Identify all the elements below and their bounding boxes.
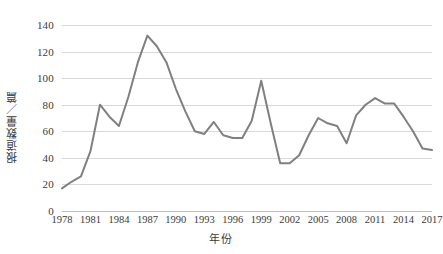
series-line-report-count [62,36,432,189]
x-tick-label: 1981 [80,214,101,225]
plot-area [62,25,432,211]
x-axis-tick-labels: 1978198119841987199019931996199920022005… [62,214,432,230]
x-axis-title: 年份 [0,230,442,246]
series-line-layer [62,25,432,211]
y-tick-label: 120 [37,46,54,58]
x-tick-label: 1999 [251,214,272,225]
y-tick-label: 0 [48,205,54,217]
x-tick-label: 2005 [308,214,329,225]
x-tick-label: 2002 [279,214,300,225]
y-tick-label: 20 [43,178,54,190]
x-tick-label: 1978 [52,214,73,225]
x-tick-label: 1993 [194,214,215,225]
y-tick-label: 60 [43,125,54,137]
x-tick-label: 1990 [165,214,186,225]
x-tick-label: 1984 [108,214,129,225]
x-tick-label: 2014 [393,214,414,225]
gridline [62,211,432,212]
y-tick-label: 100 [37,72,54,84]
x-tick-label: 2017 [422,214,443,225]
x-tick-label: 2008 [336,214,357,225]
x-tick-label: 2011 [365,214,386,225]
x-tick-label: 1996 [222,214,243,225]
y-axis-title: 报道数量／篇 [4,91,20,163]
y-tick-label: 80 [43,99,54,111]
y-tick-label: 140 [37,19,54,31]
x-tick-label: 1987 [137,214,158,225]
y-tick-label: 40 [43,152,54,164]
